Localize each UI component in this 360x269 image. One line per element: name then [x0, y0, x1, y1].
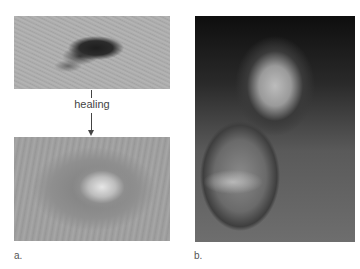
healing-label: healing	[71, 98, 113, 110]
arrow-down-icon	[88, 130, 94, 136]
healed-scar-photo	[14, 137, 170, 241]
panel-a-label: a.	[14, 250, 22, 261]
wound-photo	[14, 16, 170, 89]
panel-b-label: b.	[194, 250, 202, 261]
ear-keloid-photo	[195, 16, 355, 242]
arrow-line-bottom	[91, 113, 92, 131]
arrow-line-top	[91, 90, 92, 98]
